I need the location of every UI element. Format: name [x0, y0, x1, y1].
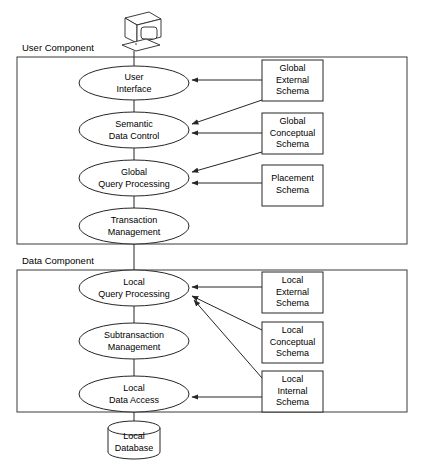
box-local-internal-schema-line2: Internal [277, 386, 307, 396]
box-local-internal-schema-line3: Schema [276, 397, 309, 407]
data-component-box [17, 270, 407, 412]
node-subtransaction-management: Subtransaction Management [79, 323, 189, 359]
node-semantic-data-control: Semantic Data Control [79, 112, 189, 148]
node-local-database-line1: Local [123, 431, 145, 441]
user-component-box [17, 57, 407, 244]
node-user-interface: User Interface [79, 66, 189, 100]
node-semantic-data-control-line1: Semantic [115, 119, 153, 129]
box-global-external-schema-line2: External [276, 75, 309, 85]
node-local-data-access-line1: Local [123, 383, 145, 393]
node-global-query-processing: Global Query Processing [79, 160, 189, 196]
box-local-external-schema-line1: Local [282, 275, 304, 285]
node-user-interface-line2: Interface [116, 84, 151, 94]
box-global-conceptual-schema-line1: Global [279, 116, 305, 126]
box-local-internal-schema: Local Internal Schema [262, 371, 323, 412]
arrow-local-conceptual-to-local-query-processing [192, 296, 262, 330]
node-local-query-processing: Local Query Processing [79, 270, 189, 306]
box-global-conceptual-schema: Global Conceptual Schema [262, 113, 323, 154]
node-subtransaction-management-line2: Management [108, 342, 161, 352]
data-component-label: Data Component [22, 255, 94, 266]
node-global-query-processing-line2: Query Processing [98, 179, 170, 189]
node-user-interface-line1: User [124, 72, 143, 82]
box-local-external-schema-line3: Schema [276, 298, 309, 308]
box-global-conceptual-schema-line3: Schema [276, 139, 309, 149]
node-local-data-access-line2: Data Access [109, 395, 160, 405]
node-local-query-processing-line1: Local [123, 277, 145, 287]
node-local-data-access: Local Data Access [79, 376, 189, 412]
box-local-conceptual-schema-line1: Local [282, 325, 304, 335]
node-semantic-data-control-line2: Data Control [109, 131, 160, 141]
box-local-conceptual-schema-line2: Conceptual [270, 337, 316, 347]
box-global-external-schema-line1: Global [279, 63, 305, 73]
node-transaction-management-line2: Management [108, 227, 161, 237]
box-local-conceptual-schema-line3: Schema [276, 348, 309, 358]
user-component-label: User Component [22, 42, 94, 53]
node-transaction-management: Transaction Management [79, 208, 189, 244]
box-global-external-schema-line3: Schema [276, 86, 309, 96]
node-local-query-processing-line2: Query Processing [98, 289, 170, 299]
arrow-local-internal-to-local-query-processing [194, 300, 262, 378]
node-subtransaction-management-line1: Subtransaction [104, 330, 164, 340]
node-global-query-processing-line1: Global [121, 167, 147, 177]
arrow-global-conceptual-to-global-query-processing [192, 152, 262, 172]
box-placement-schema: Placement Schema [262, 165, 323, 206]
node-transaction-management-line1: Transaction [111, 215, 158, 225]
box-placement-schema-line1: Placement [271, 173, 314, 183]
diagram-canvas: User Component User Interface Semantic D… [0, 0, 427, 467]
box-global-external-schema: Global External Schema [262, 60, 323, 101]
box-local-external-schema-line2: External [276, 287, 309, 297]
box-local-internal-schema-line1: Local [282, 374, 304, 384]
box-global-conceptual-schema-line2: Conceptual [270, 128, 316, 138]
box-placement-schema-line2: Schema [276, 185, 309, 195]
computer-terminal-icon [122, 12, 161, 51]
architecture-diagram: User Component User Interface Semantic D… [0, 0, 427, 467]
box-local-external-schema: Local External Schema [262, 272, 323, 313]
node-local-database: Local Database [108, 421, 160, 459]
box-local-conceptual-schema: Local Conceptual Schema [262, 322, 323, 363]
arrow-global-external-to-semantic-data-control [192, 100, 262, 124]
node-local-database-line2: Database [115, 443, 154, 453]
